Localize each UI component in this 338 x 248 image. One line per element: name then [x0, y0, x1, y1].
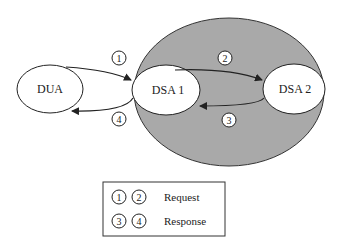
- svg-text:3: 3: [117, 216, 122, 227]
- svg-text:3: 3: [227, 115, 232, 126]
- node-dsa2: DSA 2: [263, 64, 325, 114]
- svg-text:2: 2: [137, 192, 142, 203]
- directory-diagram: DUA DSA 1 DSA 2 1 4 2 3 1 2 Request: [0, 0, 338, 248]
- edge-4-arrow: [72, 98, 133, 111]
- svg-text:1: 1: [117, 192, 122, 203]
- legend-label: Request: [164, 191, 199, 203]
- step-badge-3: 3: [222, 113, 236, 127]
- svg-text:1: 1: [117, 53, 122, 64]
- legend: 1 2 Request 3 4 Response: [103, 182, 225, 236]
- node-label: DSA 1: [152, 83, 184, 97]
- step-badge-1: 1: [112, 51, 126, 65]
- node-label: DSA 2: [279, 82, 311, 96]
- legend-label: Response: [164, 215, 206, 227]
- step-badge-2: 2: [218, 51, 232, 65]
- node-label: DUA: [37, 82, 63, 96]
- svg-text:4: 4: [117, 114, 122, 125]
- node-dsa1: DSA 1: [132, 65, 200, 115]
- svg-text:4: 4: [137, 216, 142, 227]
- node-dua: DUA: [17, 65, 83, 113]
- step-badge-4: 4: [112, 112, 126, 126]
- svg-text:2: 2: [223, 53, 228, 64]
